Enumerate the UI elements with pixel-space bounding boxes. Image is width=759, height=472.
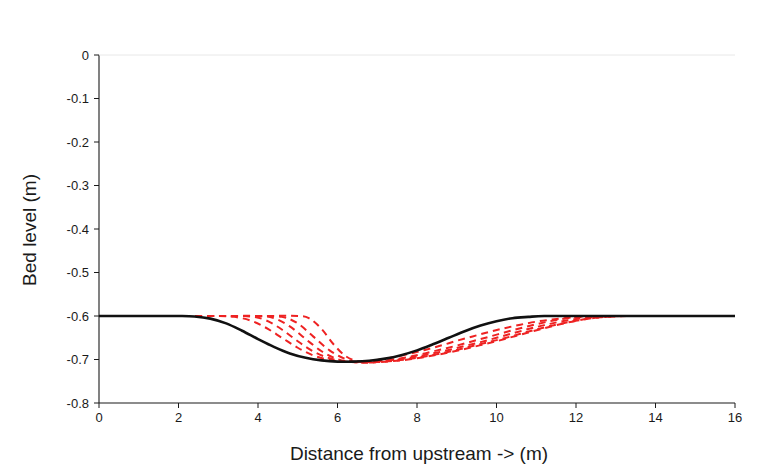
- x-axis-tick-label: 8: [413, 410, 420, 425]
- y-axis-tick-label: -0.8: [67, 396, 89, 411]
- x-axis-tick-label: 6: [334, 410, 341, 425]
- x-axis-tick-label: 12: [569, 410, 583, 425]
- y-axis-tick-label: -0.1: [67, 91, 89, 106]
- chart-figure: Along river profile 0-0.1-0.2-0.3-0.4-0.…: [0, 0, 759, 472]
- y-axis-title: Bed level (m): [19, 174, 40, 286]
- x-axis-tick-label: 4: [254, 410, 261, 425]
- x-axis-title: Distance from upstream -> (m): [290, 443, 548, 464]
- y-axis-tick-label: -0.3: [67, 178, 89, 193]
- x-axis-tick-label: 2: [175, 410, 182, 425]
- x-axis-tick-label: 16: [728, 410, 742, 425]
- chart-background: [0, 0, 759, 472]
- along-river-profile-chart: 0-0.1-0.2-0.3-0.4-0.5-0.6-0.7-0.8 024681…: [0, 0, 759, 472]
- x-axis-tick-label: 14: [648, 410, 662, 425]
- y-axis-tick-label: 0: [82, 48, 89, 63]
- x-axis-tick-label: 0: [95, 410, 102, 425]
- y-axis-tick-label: -0.5: [67, 265, 89, 280]
- y-axis-tick-label: -0.2: [67, 135, 89, 150]
- x-axis-tick-label: 10: [489, 410, 503, 425]
- y-axis-tick-label: -0.7: [67, 352, 89, 367]
- y-axis-tick-label: -0.4: [67, 222, 89, 237]
- y-axis-tick-label: -0.6: [67, 309, 89, 324]
